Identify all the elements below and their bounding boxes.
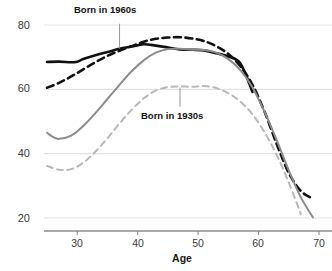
line-chart-canvas <box>0 0 332 271</box>
y-tick-label-60: 60 <box>4 82 30 94</box>
x-tick-label-30: 30 <box>62 237 92 249</box>
y-tick-label-80: 80 <box>4 19 30 31</box>
x-tick-label-70: 70 <box>304 237 332 249</box>
annotation-leaders <box>120 24 180 107</box>
data-series-group <box>47 37 313 217</box>
series-line-2 <box>47 49 313 218</box>
chart-container: 80 60 40 20 30 40 50 60 70 Age Born in 1… <box>0 0 332 271</box>
x-tick-label-50: 50 <box>183 237 213 249</box>
annotation-born-1930s: Born in 1930s <box>141 110 203 121</box>
y-tick-label-40: 40 <box>4 147 30 159</box>
x-tick-label-40: 40 <box>123 237 153 249</box>
x-tick-label-60: 60 <box>243 237 273 249</box>
annotation-born-1960s: Born in 1960s <box>74 4 136 15</box>
y-tick-label-20: 20 <box>4 212 30 224</box>
series-line-0 <box>47 44 253 92</box>
x-axis-title: Age <box>152 252 212 264</box>
